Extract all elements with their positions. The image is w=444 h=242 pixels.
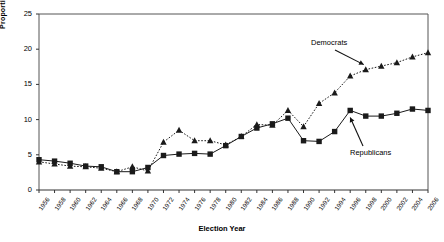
plot-area	[0, 0, 444, 242]
chart-container: Proportion Election Year 0510152025 1956…	[0, 0, 444, 242]
